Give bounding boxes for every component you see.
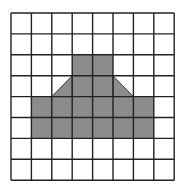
shaded-cell <box>52 97 72 118</box>
shaded-half-triangle <box>113 76 133 97</box>
shaded-cell <box>72 97 92 118</box>
shaded-cell <box>31 97 51 118</box>
shaded-half-triangle <box>52 76 72 97</box>
shaded-cell <box>93 97 113 118</box>
shaded-cell <box>133 97 153 118</box>
shaded-cell <box>113 118 133 139</box>
shaded-cell <box>52 118 72 139</box>
shaded-cell <box>72 55 92 76</box>
shaded-cell <box>93 76 113 97</box>
grid-shape-canvas <box>0 0 181 189</box>
shaded-cell <box>31 118 51 139</box>
shaded-cell <box>93 55 113 76</box>
shaded-cell <box>133 118 153 139</box>
shaded-cell <box>72 76 92 97</box>
shaded-cell <box>113 97 133 118</box>
shaded-cell <box>93 118 113 139</box>
grid-lines <box>11 13 174 180</box>
shaded-cell <box>72 118 92 139</box>
